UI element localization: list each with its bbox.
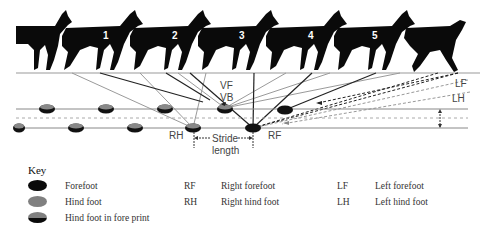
stride-length-label-line2: length — [212, 146, 239, 156]
key-hind-foot-label: Hind foot — [65, 198, 102, 208]
animal-silhouettes — [16, 10, 466, 72]
label-vb: VB — [220, 93, 233, 103]
label-rh: RH — [169, 131, 183, 141]
key-title: Key — [28, 164, 46, 176]
key-forefoot-label: Forefoot — [65, 182, 98, 192]
animal-number-5: 5 — [372, 31, 378, 41]
abbr-lf: LF — [337, 182, 348, 192]
key-legend: Key Forefoot Hind foot Hind foot in fore… — [0, 158, 480, 242]
abbr-rh-meaning: Right hind foot — [221, 198, 279, 208]
label-vf: VF — [220, 81, 233, 91]
abbr-rh: RH — [184, 198, 197, 208]
abbr-lh: LH — [337, 198, 350, 208]
label-rf: RF — [268, 131, 281, 141]
abbr-lh-meaning: Left hind foot — [375, 198, 428, 208]
key-hind-in-fore-label: Hind foot in fore print — [65, 214, 149, 224]
label-lh: LH — [452, 94, 465, 104]
stride-length-label-line1: Stride — [212, 134, 238, 144]
gait-diagram: 1 2 3 4 5 VF VB LF LH RH RF Stride lengt… — [0, 0, 480, 150]
gait-illustration — [0, 0, 480, 150]
animal-number-3: 3 — [239, 31, 245, 41]
animal-number-1: 1 — [103, 31, 109, 41]
abbr-lf-meaning: Left forefoot — [375, 182, 424, 192]
abbr-rf-meaning: Right forefoot — [221, 182, 275, 192]
animal-number-4: 4 — [308, 31, 314, 41]
abbr-rf: RF — [184, 182, 196, 192]
forefoot-print-icon — [28, 180, 47, 191]
hind-in-fore-print-icon — [28, 212, 47, 223]
animal-number-2: 2 — [172, 31, 178, 41]
hind-foot-print-icon — [28, 196, 47, 207]
label-lf: LF — [455, 79, 467, 89]
